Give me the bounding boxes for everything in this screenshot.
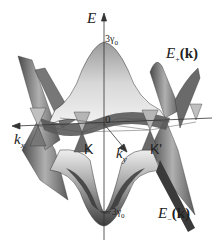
k-point-label: K xyxy=(84,142,93,156)
ky-sub: y xyxy=(123,154,127,164)
upper-band-label: E+(k) xyxy=(166,46,198,64)
ky-axis-label: ky xyxy=(116,146,127,164)
e-axis-arrow-icon xyxy=(102,13,107,21)
band-structure-figure: E 3γ0 E+(k) 0 kx K ky K' −3γ0 E−(k) xyxy=(0,0,215,240)
top-tick-text: 3γ xyxy=(105,33,114,44)
k-prime-point-label: K' xyxy=(150,142,162,156)
kx-text: k xyxy=(14,131,21,147)
bottom-tick-sub: 0 xyxy=(121,212,125,220)
kx-axis-arrow-icon xyxy=(12,123,20,129)
kx-axis-label: kx xyxy=(14,132,25,150)
lower-band-label: E−(k) xyxy=(158,206,190,224)
lower-band-k: (k) xyxy=(172,205,190,221)
kx-sub: x xyxy=(21,140,25,150)
top-tick-label: 3γ0 xyxy=(105,34,118,47)
bottom-tick-text: −3γ xyxy=(106,206,121,217)
origin-label: 0 xyxy=(105,114,111,125)
ky-text: k xyxy=(116,145,123,161)
top-tick-sub: 0 xyxy=(114,39,118,47)
upper-band-k: (k) xyxy=(180,45,198,61)
upper-band-e: E xyxy=(166,45,175,61)
energy-axis-label: E xyxy=(87,11,96,26)
lower-band-e: E xyxy=(158,205,167,221)
bottom-tick-label: −3γ0 xyxy=(106,207,125,220)
